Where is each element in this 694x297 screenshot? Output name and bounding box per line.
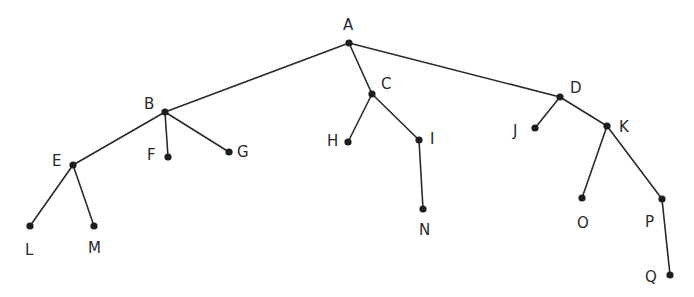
edge-c-i <box>372 94 419 140</box>
node-label-i: I <box>430 130 434 148</box>
labels-group: ABCDEFGHIJKLMNOPQ <box>25 16 657 286</box>
edge-b-g <box>165 112 229 152</box>
node-label-b: B <box>144 95 154 113</box>
node-label-j: J <box>512 122 517 140</box>
edge-p-q <box>662 199 670 275</box>
node-n <box>419 205 426 212</box>
node-o <box>578 194 585 201</box>
node-d <box>556 93 563 100</box>
edge-k-o <box>582 126 607 198</box>
edge-a-c <box>349 43 372 94</box>
node-p <box>658 195 665 202</box>
node-label-c: C <box>381 75 391 93</box>
edges-group <box>30 43 670 275</box>
edge-d-j <box>535 97 560 128</box>
node-h <box>344 138 351 145</box>
edge-c-h <box>348 94 372 142</box>
node-i <box>415 136 422 143</box>
node-label-k: K <box>619 118 630 136</box>
tree-diagram: ABCDEFGHIJKLMNOPQ <box>0 0 694 297</box>
tree-diagram-svg: ABCDEFGHIJKLMNOPQ <box>0 0 694 297</box>
node-label-p: P <box>645 213 654 231</box>
edge-e-l <box>30 165 73 226</box>
nodes-group <box>26 39 673 278</box>
node-l <box>26 222 33 229</box>
edge-a-b <box>165 43 349 112</box>
node-e <box>69 161 76 168</box>
node-label-l: L <box>25 241 34 259</box>
node-g <box>225 148 232 155</box>
node-q <box>666 271 673 278</box>
node-k <box>603 122 610 129</box>
node-label-e: E <box>52 152 61 170</box>
node-label-o: O <box>577 214 589 232</box>
edge-i-n <box>419 140 423 209</box>
node-label-a: A <box>343 16 354 34</box>
node-c <box>368 90 375 97</box>
node-label-h: H <box>327 132 338 150</box>
node-label-n: N <box>419 221 430 239</box>
node-j <box>531 124 538 131</box>
node-a <box>345 39 352 46</box>
node-m <box>90 222 97 229</box>
node-label-d: D <box>570 79 582 97</box>
node-label-g: G <box>237 143 249 161</box>
node-b <box>161 108 168 115</box>
edge-k-p <box>607 126 662 199</box>
edge-e-m <box>73 165 94 226</box>
edge-d-k <box>560 97 607 126</box>
node-label-f: F <box>147 146 156 164</box>
node-label-m: M <box>88 239 101 257</box>
node-label-q: Q <box>645 268 657 286</box>
node-f <box>164 153 171 160</box>
edge-b-f <box>165 112 168 157</box>
